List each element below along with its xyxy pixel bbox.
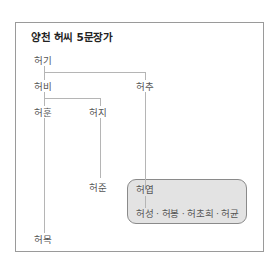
node-heohun: 허훈: [34, 107, 51, 119]
node-heoji: 허지: [89, 107, 106, 119]
node-heoyeop: 허엽: [136, 184, 153, 196]
node-heomok: 허목: [34, 234, 51, 246]
connector-lines: [0, 0, 280, 274]
node-heobi: 허비: [34, 81, 51, 93]
node-heoyeop-children: 허성 · 허봉 · 허초희 · 허균: [136, 208, 239, 220]
node-heochu: 허추: [136, 81, 153, 93]
node-heojun: 허준: [89, 182, 106, 194]
node-heogi: 허기: [34, 55, 51, 67]
